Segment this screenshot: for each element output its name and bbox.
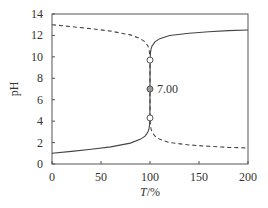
- equivalence-ph-label: 7.00: [157, 82, 178, 96]
- y-tick-label: 4: [37, 114, 43, 128]
- y-tick-label: 2: [37, 136, 43, 150]
- y-axis-ticks: 02468101214: [31, 7, 55, 171]
- y-tick-label: 0: [37, 157, 43, 171]
- y-tick-label: 8: [37, 71, 43, 85]
- x-tick-label: 150: [190, 170, 208, 184]
- equivalence-markers: 7.00: [147, 57, 178, 121]
- y-tick-label: 12: [31, 28, 43, 42]
- y-tick-label: 6: [37, 93, 43, 107]
- titration-chart: 02468101214 050100150200 7.00 pH T/%: [0, 0, 268, 208]
- y-tick-label: 10: [31, 50, 43, 64]
- x-axis-label: T/%: [140, 185, 160, 199]
- y-tick-label: 14: [31, 7, 43, 21]
- equivalence-point-marker: [147, 86, 153, 92]
- x-tick-label: 200: [239, 170, 257, 184]
- y-axis-label: pH: [7, 81, 21, 96]
- x-tick-label: 0: [49, 170, 55, 184]
- x-tick-label: 100: [141, 170, 159, 184]
- x-tick-label: 50: [95, 170, 107, 184]
- jump-boundary-marker: [147, 57, 153, 63]
- jump-boundary-marker: [147, 115, 153, 121]
